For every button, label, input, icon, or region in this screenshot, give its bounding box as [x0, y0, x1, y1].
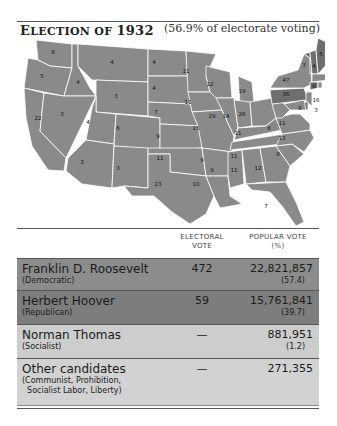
svg-text:9: 9	[200, 157, 204, 163]
popular-percent: (1.2)	[286, 342, 305, 351]
svg-text:16: 16	[313, 97, 320, 103]
candidate-name: Other candidates	[22, 362, 126, 376]
svg-text:15: 15	[193, 125, 200, 131]
popular-vote: 271,355	[268, 362, 314, 375]
svg-text:3: 3	[116, 165, 120, 171]
svg-text:3: 3	[114, 93, 118, 99]
svg-text:11: 11	[231, 153, 238, 159]
svg-text:3: 3	[314, 107, 318, 113]
svg-text:5: 5	[40, 73, 44, 79]
svg-text:9: 9	[156, 133, 160, 139]
svg-text:4: 4	[152, 59, 156, 65]
svg-text:4: 4	[110, 59, 114, 65]
state-ny	[270, 54, 312, 88]
table-row-thomas: Norman Thomas (Socialist) — 881,951 (1.2…	[17, 324, 319, 358]
svg-text:11: 11	[157, 155, 164, 161]
svg-text:9: 9	[210, 167, 214, 173]
svg-text:11: 11	[183, 68, 190, 74]
candidate-name: Franklin D. Roosevelt	[22, 262, 148, 276]
popular-percent: (57.4)	[281, 276, 305, 285]
candidate-name: Herbert Hoover	[22, 294, 115, 308]
header-popular-line1: POPULAR VOTE	[239, 233, 317, 242]
electoral-vote: —	[182, 362, 222, 375]
svg-text:8: 8	[298, 105, 302, 111]
state-fl	[246, 182, 304, 226]
svg-text:11: 11	[231, 167, 238, 173]
map-bottom-rule	[17, 228, 319, 229]
popular-vote: 881,951	[268, 328, 314, 341]
electoral-vote: —	[182, 328, 222, 341]
svg-text:4: 4	[312, 63, 316, 69]
state-ri	[318, 82, 322, 88]
svg-text:4: 4	[86, 119, 90, 125]
svg-text:19: 19	[239, 88, 246, 94]
svg-text:7: 7	[264, 203, 268, 209]
state-ma	[312, 74, 325, 82]
svg-text:14: 14	[223, 113, 230, 119]
svg-text:8: 8	[51, 49, 55, 55]
svg-text:22: 22	[35, 115, 42, 121]
electoral-vote: 59	[182, 294, 222, 307]
state-co	[114, 114, 160, 150]
table-row-roosevelt: Franklin D. Roosevelt (Democratic) 472 2…	[17, 258, 319, 290]
state-az	[66, 140, 114, 188]
candidate-party: (Socialist)	[22, 342, 62, 352]
candidate-name: Norman Thomas	[22, 328, 121, 342]
svg-text:6: 6	[116, 125, 120, 131]
state-ar	[202, 148, 232, 176]
table-row-hoover: Herbert Hoover (Republican) 59 15,761,84…	[17, 290, 319, 324]
us-electoral-map: 8 5 22 4 3 4 3 4 3 6 3 4 4 7 9 11 23 11 …	[20, 36, 325, 228]
header-electoral-line2: VOTE	[172, 242, 232, 251]
svg-text:4: 4	[152, 85, 156, 91]
svg-text:5: 5	[319, 51, 323, 57]
svg-text:12: 12	[207, 81, 214, 87]
svg-text:7: 7	[154, 109, 158, 115]
map-graphic: 8 5 22 4 3 4 3 4 3 6 3 4 4 7 9 11 23 11 …	[20, 36, 325, 228]
table-row-other: Other candidates (Communist, Prohibition…	[17, 358, 319, 406]
candidate-party: (Republican)	[22, 308, 72, 318]
svg-text:11: 11	[279, 120, 286, 126]
table-bottom-rule	[17, 408, 319, 409]
svg-text:3: 3	[60, 111, 64, 117]
svg-text:8: 8	[276, 151, 280, 157]
header-electoral-vote: ELECTORAL VOTE	[172, 233, 232, 251]
svg-text:12: 12	[255, 165, 262, 171]
svg-text:4: 4	[76, 79, 80, 85]
svg-text:8: 8	[312, 83, 316, 89]
candidate-party: (Communist, Prohibition, Socialist Labor…	[22, 376, 122, 396]
header-popular-line2: (%)	[239, 242, 317, 251]
svg-text:13: 13	[279, 135, 286, 141]
header-electoral-line1: ELECTORAL	[172, 233, 232, 242]
svg-text:10: 10	[193, 181, 200, 187]
popular-vote: 15,761,841	[250, 294, 313, 307]
turnout-note: (56.9% of electorate voting)	[164, 22, 320, 35]
header-popular-vote: POPULAR VOTE (%)	[239, 233, 317, 251]
results-table: ELECTORAL VOTE POPULAR VOTE (%) Franklin…	[17, 232, 319, 406]
state-wy	[96, 80, 148, 116]
candidate-party: (Democratic)	[22, 276, 74, 286]
table-header: ELECTORAL VOTE POPULAR VOTE (%)	[17, 232, 319, 258]
popular-vote: 22,821,857	[250, 262, 313, 275]
popular-percent: (39.7)	[281, 308, 305, 317]
svg-text:36: 36	[283, 91, 290, 97]
svg-text:8: 8	[267, 125, 271, 131]
svg-text:11: 11	[185, 99, 192, 105]
svg-text:29: 29	[209, 113, 216, 119]
svg-text:11: 11	[235, 130, 242, 136]
electoral-vote: 472	[182, 262, 222, 275]
svg-text:3: 3	[302, 62, 306, 68]
svg-text:23: 23	[155, 181, 162, 187]
svg-text:26: 26	[239, 111, 246, 117]
svg-text:47: 47	[283, 77, 290, 83]
svg-text:3: 3	[80, 159, 84, 165]
